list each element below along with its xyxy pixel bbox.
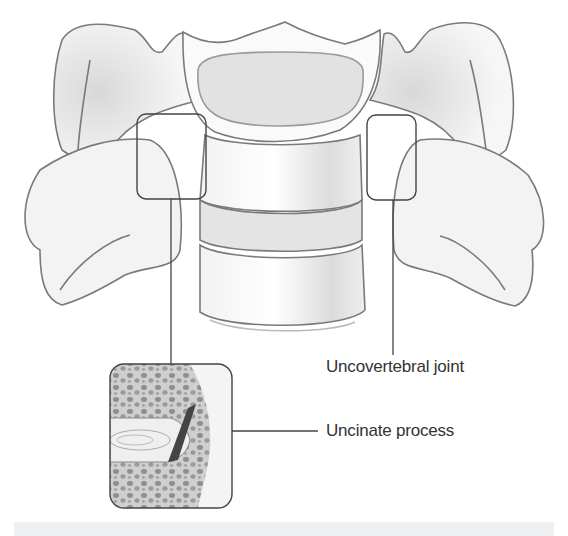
label-uncinate-process: Uncinate process — [326, 421, 454, 441]
caption-bar — [14, 522, 554, 536]
superior-endplate — [198, 52, 363, 126]
left-lower-transverse-process — [25, 139, 181, 305]
label-uncovertebral-joint: Uncovertebral joint — [326, 357, 464, 377]
vertebrae-illustration — [25, 22, 544, 331]
joint-detail-inset — [110, 364, 232, 508]
upper-vertebral-body — [200, 135, 362, 211]
anatomy-figure — [0, 0, 568, 536]
lower-vertebral-body — [200, 245, 365, 325]
